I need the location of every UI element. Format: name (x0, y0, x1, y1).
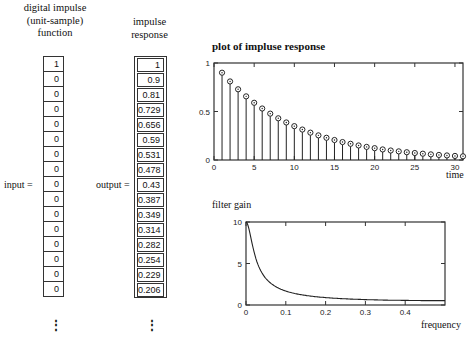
y-tick-label: 1 (206, 59, 211, 68)
x-tick-label: 0 (212, 163, 217, 172)
x-tick-label: 10 (290, 163, 299, 172)
x-tick-label: 15 (330, 163, 339, 172)
x-tick-label: 0 (244, 308, 249, 317)
x-tick-label: 0.1 (280, 308, 292, 317)
plots-canvas: 05101520253000.5100.10.20.30.40510 (0, 0, 474, 338)
x-tick-label: 0.3 (360, 308, 372, 317)
x-tick-label: 0.4 (400, 308, 412, 317)
gain-curve (246, 222, 445, 301)
y-tick-label: 0 (238, 301, 243, 310)
y-tick-label: 5 (238, 260, 243, 269)
x-tick-label: 25 (410, 163, 419, 172)
plot-frame (246, 222, 445, 305)
x-tick-label: 20 (370, 163, 379, 172)
x-tick-label: 5 (252, 163, 257, 172)
x-tick-label: 30 (451, 163, 460, 172)
y-tick-label: 0.5 (199, 108, 211, 117)
y-tick-label: 0 (206, 156, 211, 165)
plot-frame (214, 63, 463, 160)
x-tick-label: 0.2 (320, 308, 332, 317)
y-tick-label: 10 (233, 218, 242, 227)
